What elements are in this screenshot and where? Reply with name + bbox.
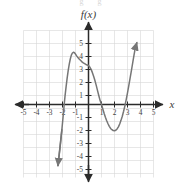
coordinate-plane: -5 -4 -3 -2 -1 1 2 3 4 5 5 4 3 2 1 -1 -2… (0, 0, 187, 187)
y-tick-label: -3 (77, 139, 83, 148)
x-tick-label: 4 (139, 108, 143, 117)
x-tick-label: 5 (152, 108, 156, 117)
x-tick-label: -3 (46, 108, 52, 117)
x-tick-label: -5 (20, 108, 26, 117)
y-tick-label: -5 (77, 165, 83, 174)
y-tick-label: 3 (79, 65, 83, 74)
x-axis-label: x (169, 98, 175, 110)
x-tick-label: -4 (33, 108, 39, 117)
y-tick-label: -1 (77, 113, 83, 122)
y-tick-label: 5 (79, 39, 83, 48)
y-tick-label: 2 (79, 78, 83, 87)
graph-figure: g g (0, 0, 187, 187)
y-tick-label: -2 (77, 126, 83, 135)
function-label: f(x) (81, 8, 97, 21)
y-tick-label: -4 (77, 152, 83, 161)
x-tick-label: 3 (126, 108, 130, 117)
x-tick-label: 2 (113, 108, 117, 117)
y-tick-label: 1 (79, 91, 83, 100)
